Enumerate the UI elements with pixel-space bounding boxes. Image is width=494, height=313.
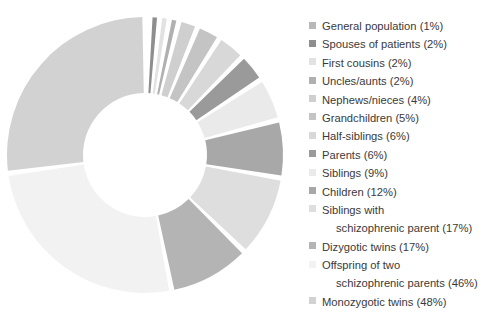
legend-item[interactable]: Siblings (9%): [309, 164, 494, 182]
legend-item[interactable]: Nephews/nieces (4%): [309, 91, 494, 109]
legend-label: schizophrenic parent (17%): [322, 219, 472, 237]
legend-item[interactable]: Uncles/aunts (2%): [309, 72, 494, 90]
legend-label: Grandchildren (5%): [322, 109, 419, 127]
legend-swatch: [309, 261, 316, 268]
legend-swatch: [309, 132, 316, 139]
legend-item[interactable]: Grandchildren (5%): [309, 109, 494, 127]
legend-label: Half-siblings (6%): [322, 127, 410, 145]
legend-label: Dizygotic twins (17%): [322, 238, 429, 256]
legend-item[interactable]: schizophrenic parents (46%): [309, 274, 494, 292]
legend-label: First cousins (2%): [322, 54, 412, 72]
legend-label: Nephews/nieces (4%): [322, 91, 431, 109]
legend-item[interactable]: First cousins (2%): [309, 54, 494, 72]
legend-label: Offspring of two: [322, 256, 400, 274]
legend-item[interactable]: Half-siblings (6%): [309, 127, 494, 145]
legend-swatch: [309, 224, 316, 231]
legend-item[interactable]: Offspring of two: [309, 256, 494, 274]
legend-swatch: [309, 242, 316, 249]
legend-item[interactable]: Siblings with: [309, 201, 494, 219]
legend-label: Siblings with: [322, 201, 384, 219]
legend-swatch: [309, 279, 316, 286]
legend-swatch: [309, 58, 316, 65]
legend-label: schizophrenic parents (46%): [322, 274, 478, 292]
donut-slice[interactable]: [9, 164, 170, 293]
legend-swatch: [309, 113, 316, 120]
legend-item[interactable]: General population (1%): [309, 17, 494, 35]
legend-label: Monozygotic twins (48%): [322, 293, 446, 311]
legend-label: General population (1%): [322, 17, 443, 35]
legend-swatch: [309, 95, 316, 102]
legend-label: Uncles/aunts (2%): [322, 72, 413, 90]
legend-swatch: [309, 77, 316, 84]
legend-swatch: [309, 150, 316, 157]
legend-item[interactable]: Spouses of patients (2%): [309, 35, 494, 53]
donut-slice[interactable]: [7, 17, 144, 171]
legend-swatch: [309, 22, 316, 29]
legend-label: Siblings (9%): [322, 164, 388, 182]
legend-swatch: [309, 205, 316, 212]
legend-swatch: [309, 169, 316, 176]
legend-item[interactable]: Dizygotic twins (17%): [309, 238, 494, 256]
donut-slice-group: [7, 17, 283, 293]
legend-item[interactable]: Monozygotic twins (48%): [309, 293, 494, 311]
legend-swatch: [309, 40, 316, 47]
legend-label: Children (12%): [322, 183, 397, 201]
chart-figure: General population (1%)Spouses of patien…: [0, 0, 494, 313]
donut-chart: [0, 0, 300, 313]
legend-item[interactable]: Parents (6%): [309, 146, 494, 164]
legend-item[interactable]: Children (12%): [309, 183, 494, 201]
legend-label: Spouses of patients (2%): [322, 35, 447, 53]
legend-swatch: [309, 297, 316, 304]
legend-item[interactable]: schizophrenic parent (17%): [309, 219, 494, 237]
chart-legend: General population (1%)Spouses of patien…: [309, 17, 494, 311]
legend-label: Parents (6%): [322, 146, 387, 164]
legend-swatch: [309, 187, 316, 194]
